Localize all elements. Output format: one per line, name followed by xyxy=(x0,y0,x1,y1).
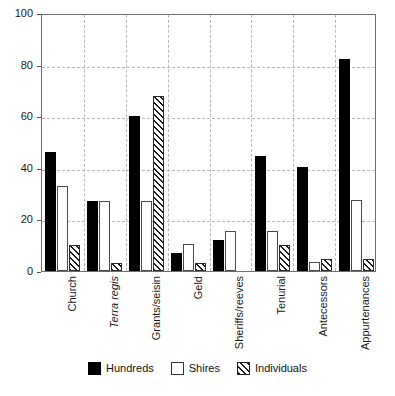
bar-group xyxy=(129,15,164,271)
bar-hundreds xyxy=(129,116,140,271)
bar-shires xyxy=(225,231,236,271)
bar-shires xyxy=(57,186,68,271)
vertical-gridline xyxy=(210,15,211,271)
bar-group xyxy=(45,15,80,271)
y-axis-tick-label: 60 xyxy=(0,111,33,122)
y-axis-tick-mark xyxy=(37,272,41,273)
bar-group xyxy=(213,15,248,271)
vertical-gridline xyxy=(168,15,169,271)
y-axis-tick-label: 80 xyxy=(0,60,33,71)
legend-item: Shires xyxy=(171,362,220,375)
bar-shires xyxy=(351,200,362,271)
legend-item: Individuals xyxy=(237,362,307,375)
bar-shires xyxy=(141,201,152,271)
bar-individuals xyxy=(279,245,290,271)
vertical-gridline xyxy=(84,15,85,271)
bar-group xyxy=(297,15,332,271)
bar-individuals xyxy=(153,96,164,271)
bar-group xyxy=(339,15,374,271)
chart-legend: HundredsShiresIndividuals xyxy=(0,362,395,375)
bar-hundreds xyxy=(213,240,224,271)
bar-individuals xyxy=(195,263,206,271)
vertical-gridline xyxy=(293,15,294,271)
bar-chart-figure: 020406080100 ChurchTerra regisGrants/sei… xyxy=(0,0,395,396)
diagonal-hatch-swatch xyxy=(237,362,250,375)
bar-individuals xyxy=(69,245,80,271)
plot-area xyxy=(41,14,376,272)
bar-shires xyxy=(183,244,194,271)
legend-label: Hundreds xyxy=(106,363,154,374)
bar-individuals xyxy=(363,259,374,271)
legend-item: Hundreds xyxy=(88,362,154,375)
bar-group xyxy=(255,15,290,271)
x-axis-label-tenurial: Tenurial xyxy=(276,276,287,315)
x-axis-label-geld: Geld xyxy=(193,276,204,299)
vertical-gridline xyxy=(251,15,252,271)
vertical-gridline xyxy=(335,15,336,271)
x-axis-label-church: Church xyxy=(67,276,78,311)
vertical-gridline xyxy=(126,15,127,271)
bar-individuals xyxy=(111,263,122,271)
legend-label: Shires xyxy=(189,363,220,374)
bar-shires xyxy=(267,231,278,271)
y-axis-tick-label: 20 xyxy=(0,214,33,225)
bar-hundreds xyxy=(339,59,350,271)
y-axis-tick-label: 0 xyxy=(0,266,33,277)
bar-individuals xyxy=(321,259,332,271)
x-axis-label-appurtenances: Appurtenances xyxy=(360,276,371,350)
solid-black-swatch xyxy=(88,362,101,375)
bar-hundreds xyxy=(45,152,56,271)
bar-group xyxy=(87,15,122,271)
y-axis-tick-label: 100 xyxy=(0,8,33,19)
y-axis-tick-label: 40 xyxy=(0,163,33,174)
white-outline-swatch xyxy=(171,362,184,375)
bar-hundreds xyxy=(171,253,182,271)
legend-label: Individuals xyxy=(255,363,307,374)
bar-group xyxy=(171,15,206,271)
bar-shires xyxy=(309,262,320,271)
x-axis-label-terra-regis: Terra regis xyxy=(109,276,120,328)
x-axis-label-grants-seisin: Grants/seisin xyxy=(151,276,162,340)
x-axis-label-sheriffs-reeves: Sheriffs/reeves xyxy=(234,276,245,349)
bar-shires xyxy=(99,201,110,271)
x-axis-label-antecessors: Antecessors xyxy=(318,276,329,337)
bar-hundreds xyxy=(87,201,98,271)
bar-hundreds xyxy=(255,156,266,271)
bar-hundreds xyxy=(297,167,308,271)
